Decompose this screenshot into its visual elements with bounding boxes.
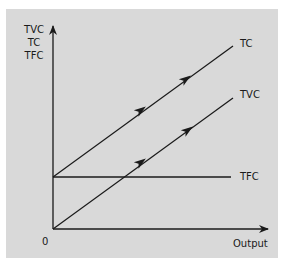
y-axis-label-tc: TC [21,37,47,49]
y-axis-label-tvc: TVC [21,24,47,36]
tvc-line [53,98,233,229]
tc-curve-label: TC [240,38,253,50]
tvc-curve-label: TVC [240,89,260,101]
x-axis-label: Output [233,238,268,250]
origin-label: 0 [42,236,48,248]
tfc-curve-label: TFC [240,171,259,183]
y-axis-label-tfc: TFC [21,50,47,62]
tc-arrow-icon [134,72,193,117]
tvc-arrow-icon [134,123,195,169]
tc-line [53,46,233,177]
